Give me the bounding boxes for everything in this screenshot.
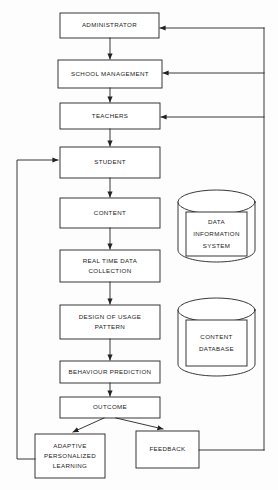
flowchart-diagram: ADMINISTRATOR SCHOOL MANAGEMENT TEACHERS… [0, 0, 278, 490]
node-box-behaviour [60, 361, 160, 383]
node-box-adaptive-learning [35, 434, 105, 478]
node-box-student [60, 147, 160, 178]
node-box-outcome [60, 397, 160, 418]
data-store-cylinder-data-information-system [178, 190, 255, 262]
node-box-school-management [58, 60, 162, 88]
data-store-inner-box-data-information-system [186, 212, 247, 256]
data-store-inner-box-content-database [186, 320, 247, 366]
flowchart-canvas [0, 0, 278, 490]
connector-outcome-to-feedback [116, 418, 163, 429]
data-store-cylinder-content-database [178, 298, 255, 376]
node-box-teachers [60, 103, 160, 129]
connector-outcome-to-adaptive-learning [73, 418, 104, 432]
node-box-design-usage [60, 305, 160, 339]
node-box-real-time-data [60, 250, 160, 282]
node-box-feedback [136, 431, 199, 468]
connector-adaptive-learning-to-student [17, 160, 58, 459]
node-box-content [60, 198, 160, 228]
node-box-administrator [60, 13, 159, 38]
